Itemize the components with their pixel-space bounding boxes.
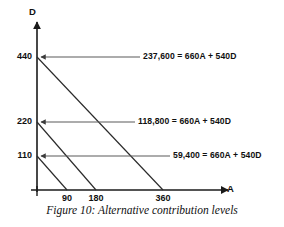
figure-caption: Figure 10: Alternative contribution leve… <box>0 204 284 216</box>
annotation-label-118800: 118,800 = 660A + 540D <box>138 117 231 126</box>
y-tick-label-220: 220 <box>10 117 32 126</box>
x-tick-label-360: 360 <box>151 194 175 203</box>
x-axis-label: A <box>227 184 234 194</box>
annotation-label-59400: 59,400 = 660A + 540D <box>173 151 262 160</box>
y-axis-label: D <box>29 7 36 17</box>
figure-container: D A 440 220 110 90 180 360 237,600 = 660… <box>0 0 284 227</box>
annotation-label-237600: 237,600 = 660A + 540D <box>143 52 237 61</box>
y-tick-label-110: 110 <box>10 151 32 160</box>
contribution-line-59400 <box>37 156 67 190</box>
callout-arrows <box>41 57 170 156</box>
x-tick-label-180: 180 <box>84 194 108 203</box>
y-tick-label-440: 440 <box>10 52 32 61</box>
plot-canvas <box>0 0 284 227</box>
x-tick-label-90: 90 <box>55 194 79 203</box>
